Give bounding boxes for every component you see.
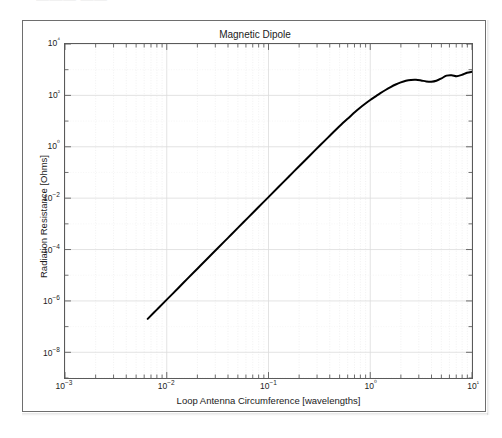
axis-ticks [65, 44, 472, 378]
x-tick-label: 10¹ [467, 381, 479, 391]
x-tick-label: 10−3 [56, 381, 73, 391]
y-tick-label: 10−8 [43, 348, 60, 358]
y-tick-label: 10⁰ [48, 141, 60, 151]
chart-title: Magnetic Dipole [23, 29, 487, 40]
page-shadow-right [487, 20, 490, 415]
x-tick-label: 10−1 [260, 381, 277, 391]
page-heading-fragment: ——— —— [36, 0, 108, 1]
page-shadow-bottom [22, 413, 488, 416]
y-axis-label: Radiation Resistance [Ohms] [38, 117, 49, 317]
figure-frame: Magnetic Dipole 10−810−610−410−210⁰10²10… [22, 20, 486, 412]
plot-area [64, 43, 473, 379]
x-axis-label: Loop Antenna Circumference [wavelengths] [64, 395, 473, 406]
x-tick-label: 10−2 [158, 381, 175, 391]
x-tick-label: 10⁰ [365, 381, 377, 391]
y-tick-label: 10² [48, 90, 60, 100]
y-tick-label: 10⁴ [48, 38, 60, 48]
